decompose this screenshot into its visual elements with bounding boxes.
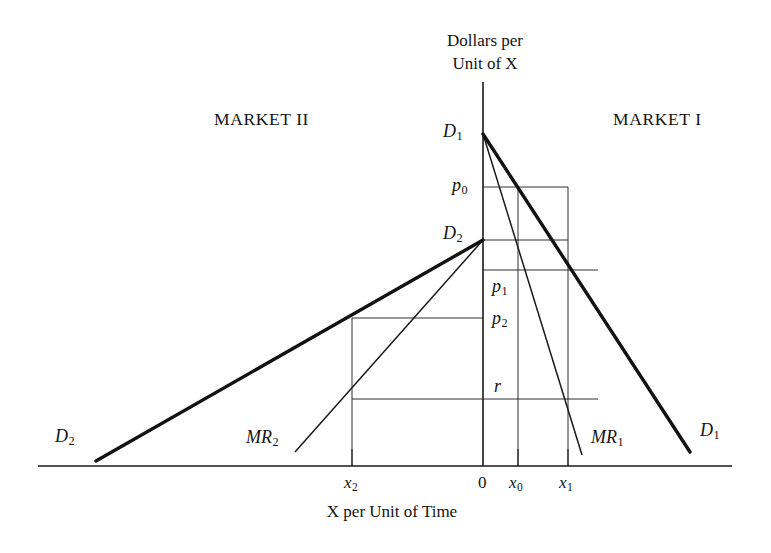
mr1-label: MR1: [591, 428, 624, 449]
d1-curve: [483, 134, 690, 452]
d2-curve: [96, 240, 483, 461]
d2-end-label: D2: [55, 427, 75, 448]
p2-label: p2: [492, 309, 508, 330]
market-two-label: MARKET II: [214, 111, 309, 129]
diagram-canvas: [0, 0, 771, 553]
p1-label: p1: [492, 277, 508, 298]
origin-label: 0: [478, 474, 487, 491]
x2-tick-label: x2: [344, 474, 358, 494]
price-discrimination-figure: Dollars per Unit of X X per Unit of Time…: [0, 0, 771, 553]
r-label: r: [494, 377, 501, 395]
x-axis-title: X per Unit of Time: [272, 503, 512, 520]
mr2-curve: [295, 240, 483, 452]
mr2-label: MR2: [246, 428, 279, 449]
p0-label: p0: [452, 176, 468, 197]
y-axis-title-line2: Unit of X: [400, 55, 570, 72]
d1-top-label: D1: [443, 122, 463, 143]
d1-end-label: D1: [700, 421, 720, 442]
y-axis-title: Dollars per Unit of X: [400, 32, 570, 72]
d2-top-label: D2: [443, 224, 463, 245]
y-axis-title-line1: Dollars per: [400, 32, 570, 49]
x0-tick-label: x0: [509, 474, 523, 494]
market-one-label: MARKET I: [613, 111, 702, 129]
x1-tick-label: x1: [559, 474, 573, 494]
